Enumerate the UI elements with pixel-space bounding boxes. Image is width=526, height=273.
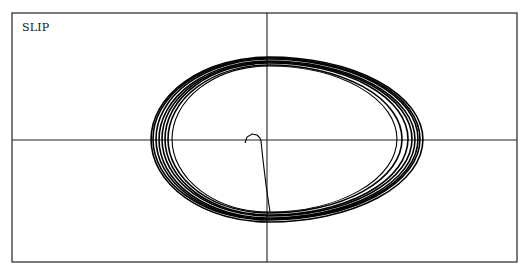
plot-frame — [12, 13, 517, 262]
phase-plot — [0, 0, 526, 273]
cycle-loop — [172, 66, 397, 212]
transient-trajectory — [245, 134, 270, 212]
chart-title: SLIP — [22, 21, 49, 34]
cycle-loop — [168, 65, 402, 213]
